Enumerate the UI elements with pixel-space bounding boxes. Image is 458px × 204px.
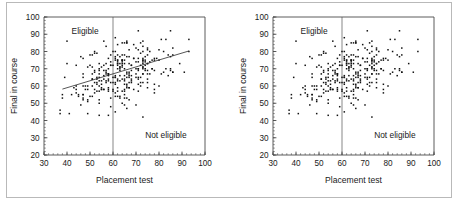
y-tick-label: 40 bbox=[259, 117, 269, 126]
scatter-points bbox=[59, 30, 189, 118]
region-annotation: Not eligible bbox=[145, 130, 187, 140]
y-tick-label: 50 bbox=[259, 99, 269, 108]
y-tick-label: 100 bbox=[26, 13, 40, 22]
y-tick-label: 80 bbox=[259, 48, 269, 57]
x-tick-label: 80 bbox=[383, 159, 393, 168]
scatter-panel-left: 304050607080901002030405060708090100Plac… bbox=[0, 0, 229, 204]
x-tick-label: 50 bbox=[85, 159, 95, 168]
x-tick-label: 90 bbox=[406, 159, 416, 168]
y-tick-label: 70 bbox=[259, 65, 269, 74]
y-tick-label: 60 bbox=[259, 82, 269, 91]
y-tick-label: 40 bbox=[30, 117, 40, 126]
x-tick-label: 60 bbox=[337, 159, 347, 168]
y-tick-label: 90 bbox=[259, 30, 269, 39]
y-tick-label: 20 bbox=[259, 151, 269, 160]
region-annotation: Eligible bbox=[72, 26, 99, 36]
y-axis-label: Final in course bbox=[238, 58, 248, 114]
y-tick-label: 50 bbox=[30, 99, 40, 108]
x-tick-label: 80 bbox=[154, 159, 164, 168]
region-annotation: Not eligible bbox=[374, 130, 416, 140]
region-annotation: Eligible bbox=[301, 26, 328, 36]
y-tick-label: 60 bbox=[30, 82, 40, 91]
y-tick-label: 20 bbox=[30, 151, 40, 160]
y-tick-label: 90 bbox=[30, 30, 40, 39]
x-tick-label: 100 bbox=[198, 159, 212, 168]
x-tick-label: 100 bbox=[427, 159, 441, 168]
y-tick-label: 100 bbox=[255, 13, 269, 22]
x-tick-label: 60 bbox=[108, 159, 118, 168]
y-tick-label: 80 bbox=[30, 48, 40, 57]
scatter-points bbox=[288, 30, 418, 118]
x-tick-label: 90 bbox=[177, 159, 187, 168]
x-axis-label: Placement test bbox=[96, 175, 153, 185]
x-tick-label: 70 bbox=[360, 159, 370, 168]
figure-container: 304050607080901002030405060708090100Plac… bbox=[0, 0, 458, 204]
scatter-plot: 304050607080901002030405060708090100Plac… bbox=[229, 0, 458, 204]
x-tick-label: 40 bbox=[291, 159, 301, 168]
x-tick-label: 50 bbox=[314, 159, 324, 168]
x-tick-label: 40 bbox=[62, 159, 72, 168]
y-tick-label: 70 bbox=[30, 65, 40, 74]
x-tick-label: 30 bbox=[39, 159, 49, 168]
x-tick-label: 70 bbox=[131, 159, 141, 168]
scatter-plot: 304050607080901002030405060708090100Plac… bbox=[0, 0, 229, 204]
y-tick-label: 30 bbox=[30, 134, 40, 143]
x-axis-label: Placement test bbox=[325, 175, 382, 185]
scatter-panel-right: 304050607080901002030405060708090100Plac… bbox=[229, 0, 458, 204]
y-tick-label: 30 bbox=[259, 134, 269, 143]
x-tick-label: 30 bbox=[268, 159, 278, 168]
y-axis-label: Final in course bbox=[9, 58, 19, 114]
